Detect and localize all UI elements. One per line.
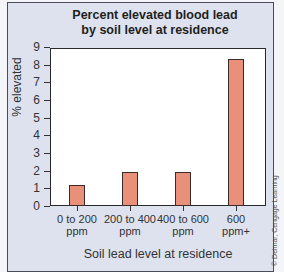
bar [175,172,191,206]
y-axis-label: % elevated [10,47,24,127]
x-category-label: 200 to 400ppm [100,213,160,237]
x-tick [130,206,131,211]
y-tick-label: 2 [28,165,40,177]
y-tick-label: 9 [28,41,40,53]
y-tick-label: 0 [28,200,40,212]
y-tick-label: 7 [28,76,40,88]
x-category-label: 0 to 200ppm [47,213,107,237]
title-line-1: Percent elevated blood lead [40,8,270,23]
x-category-label: 400 to 600ppm [153,213,213,237]
y-tick-label: 5 [28,112,40,124]
credit-text: © Delmar, Cengage Learning [271,175,278,266]
title-line-2: by soil level at residence [40,23,270,38]
bar [228,59,244,206]
y-tick-label: 8 [28,59,40,71]
x-tick [236,206,237,211]
x-category-label: 600ppm+ [206,213,266,237]
y-tick-label: 1 [28,182,40,194]
x-tick [77,206,78,211]
x-axis-label: Soil lead level at residence [50,247,266,261]
x-tick [183,206,184,211]
y-tick-label: 6 [28,94,40,106]
y-tick-label: 4 [28,129,40,141]
y-tick-label: 3 [28,147,40,159]
y-tick [44,206,50,207]
chart-title: Percent elevated blood lead by soil leve… [40,8,270,38]
bar [69,185,85,206]
bar [122,172,138,206]
